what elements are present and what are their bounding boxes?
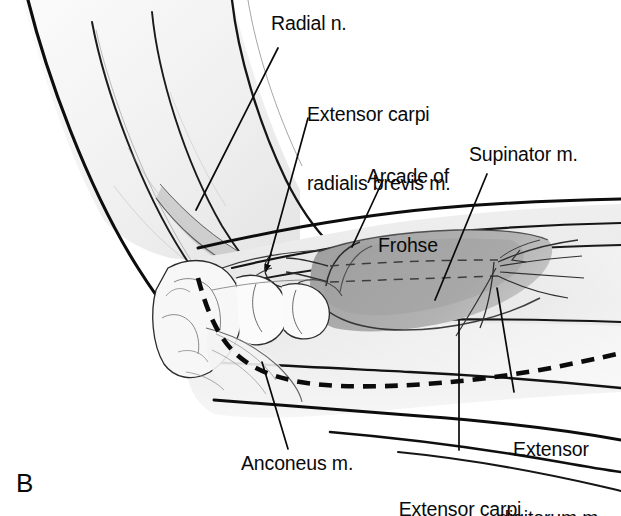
- label-extensor-carpi-ulnaris-m: Extensor carpi ulnaris m.: [390, 452, 530, 516]
- label-arcade-line1: Arcade of: [352, 165, 464, 188]
- label-anconeus-m: Anconeus m.: [241, 452, 353, 475]
- label-ecu-line1: Extensor carpi: [390, 498, 530, 516]
- label-arcade-of-frohse: Arcade of Frohse: [352, 119, 464, 303]
- label-radial-n: Radial n.: [271, 12, 347, 35]
- anatomy-figure: Radial n. Extensor carpi radialis brevis…: [0, 0, 621, 516]
- label-supinator-m: Supinator m.: [469, 143, 578, 166]
- upper-arm-body: [22, 0, 300, 259]
- panel-letter: B: [16, 468, 33, 499]
- label-arcade-line2: Frohse: [352, 234, 464, 257]
